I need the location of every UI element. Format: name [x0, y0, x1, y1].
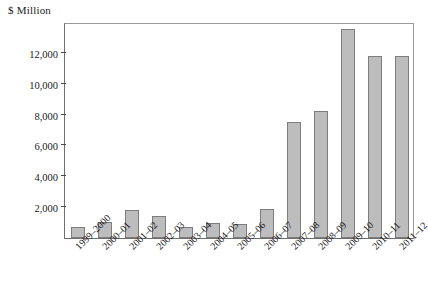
- y-axis-tick: [61, 52, 66, 53]
- y-axis-tick-label: 12,000: [0, 48, 58, 59]
- y-axis-tick-label: 2,000: [0, 203, 58, 214]
- bar: [395, 56, 409, 238]
- y-axis-tick: [61, 114, 66, 115]
- plot-area: [64, 23, 414, 239]
- y-axis-tick: [61, 206, 66, 207]
- y-axis-tick-label: 6,000: [0, 141, 58, 152]
- bar: [341, 29, 355, 238]
- bar-chart: $ Million 2,0004,0006,0008,00010,00012,0…: [0, 0, 428, 303]
- bar: [314, 111, 328, 238]
- y-axis-tick-label: 4,000: [0, 172, 58, 183]
- y-axis-tick: [61, 144, 66, 145]
- y-axis-tick: [61, 175, 66, 176]
- y-axis-tick-label: 8,000: [0, 110, 58, 121]
- bar: [368, 56, 382, 238]
- y-axis-unit-label: $ Million: [8, 4, 51, 16]
- y-axis-tick-label: 10,000: [0, 79, 58, 90]
- y-axis-tick: [61, 83, 66, 84]
